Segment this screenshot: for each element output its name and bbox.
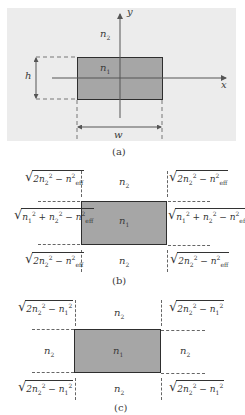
guide-line [161,300,162,326]
guide-line [32,372,74,373]
region-top-left-index: √2n22 − n2eff [25,170,84,186]
width-label: w [114,129,123,140]
guide-line [168,245,210,246]
caption-c: (c) [114,402,127,413]
guide-line [75,378,76,400]
guide-line [167,250,168,272]
height-label: h [25,70,31,81]
region-top-right-index-c: √2n22 − n12 [169,300,224,316]
core-index-label: n1 [100,62,110,75]
region-top-right-index: √2n22 − n2eff [169,170,228,186]
guide-line [167,171,168,197]
region-mid-left-index-c: n2 [44,345,54,358]
region-top-center-index-c: n2 [114,307,124,320]
guide-line [161,378,162,400]
guide-line [32,329,74,330]
region-mid-right-index: √n12 + n22 − n2eff [168,208,245,224]
core-index-label-c: n1 [113,345,123,358]
guide-line [38,244,80,245]
region-mid-left-index: √n12 + n22 − n2eff [14,208,94,224]
axes-svg [0,0,245,170]
guide-line [75,300,76,326]
region-mid-right-index-c: n2 [180,345,190,358]
region-bottom-center-index-c: n2 [114,383,124,396]
region-bottom-left-index-c: √2n22 − n12 [18,380,73,396]
cladding-index-label: n2 [100,28,110,41]
guide-line [161,373,205,374]
guide-line [161,330,205,331]
region-bottom-center-index: n2 [119,255,129,268]
guide-line [168,201,210,202]
caption-b: (b) [112,275,126,286]
y-axis-label: y [127,6,133,17]
region-bottom-right-index-c: √2n22 − n12 [169,380,224,396]
region-bottom-right-index: √2n22 − n2eff [170,252,229,268]
guide-line [38,201,80,202]
caption-a: (a) [112,146,126,157]
region-bottom-left-index: √2n22 − n2eff [25,252,84,268]
region-top-center-index: n2 [119,176,129,189]
region-top-left-index-c: √2n22 − n12 [18,300,73,316]
core-index-label-b: n1 [119,215,129,228]
x-axis-label: x [221,79,227,90]
